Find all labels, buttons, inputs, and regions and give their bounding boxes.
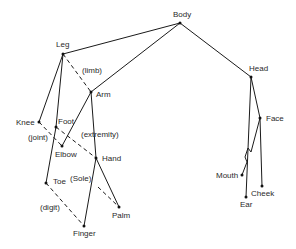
edge-head-ear [246, 77, 251, 197]
label-extremity: (extremity) [81, 130, 119, 139]
node-mouth [241, 174, 244, 177]
node-toe [45, 182, 48, 185]
label-sole: (Sole) [70, 174, 92, 183]
edge-hand-palm [96, 158, 119, 207]
label-cheek: Cheek [251, 189, 275, 198]
label-arm: Arm [96, 90, 111, 99]
node-leg [62, 53, 65, 56]
label-limb: (limb) [82, 66, 102, 75]
edge-sole-palm [98, 187, 119, 207]
node-arm [90, 91, 93, 94]
label-face: Face [266, 114, 284, 123]
node-hand [95, 157, 98, 160]
label-finger: Finger [73, 229, 96, 238]
edge-head-face [251, 77, 260, 118]
body-parts-semantic-network: Body Leg Arm Head Knee Foot Elbow Hand T… [0, 0, 296, 249]
edge-body-arm [91, 23, 180, 92]
label-head: Head [249, 64, 268, 73]
node-ear [245, 196, 248, 199]
node-finger [83, 225, 86, 228]
edge-face-cheek [260, 118, 262, 186]
node-palm [118, 206, 121, 209]
label-hand: Hand [102, 154, 121, 163]
node-body [179, 22, 182, 25]
label-leg: Leg [56, 40, 69, 49]
label-toe: Toe [53, 177, 66, 186]
label-elbow: Elbow [55, 150, 77, 159]
edge-body-head [180, 23, 251, 77]
edge-labels: (limb) (joint) (extremity) (Sole) (digit… [28, 66, 119, 212]
edge-face-mouth [242, 118, 260, 175]
label-mouth: Mouth [216, 171, 238, 180]
label-digit: (digit) [40, 203, 60, 212]
edge-arm-hand [91, 92, 96, 158]
node-face [259, 117, 262, 120]
node-cheek [261, 185, 264, 188]
label-knee: Knee [16, 118, 35, 127]
label-foot: Foot [58, 117, 75, 126]
label-ear: Ear [240, 200, 253, 209]
edge-hand-finger [84, 158, 96, 226]
label-body: Body [173, 10, 191, 19]
node-knee [38, 121, 41, 124]
node-elbow [61, 145, 64, 148]
edge-body-leg [63, 23, 180, 54]
label-palm: Palm [112, 211, 131, 220]
node-head [250, 76, 253, 79]
label-joint: (joint) [28, 133, 48, 142]
